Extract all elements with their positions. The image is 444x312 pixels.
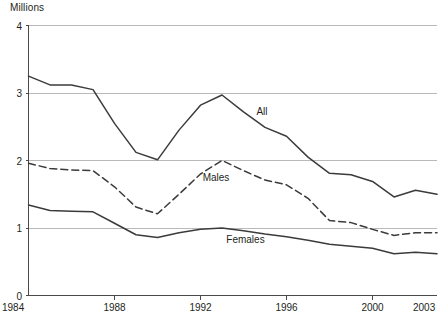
series-line-males bbox=[29, 161, 438, 236]
gridlines bbox=[29, 26, 438, 229]
y-axis-tick-label: 1 bbox=[6, 223, 22, 234]
x-axis-tick-label: 1992 bbox=[189, 302, 211, 312]
series-annotation-females: Females bbox=[226, 234, 264, 245]
y-axis-tick-label: 3 bbox=[6, 88, 22, 99]
x-axis-tick-label: 1988 bbox=[103, 302, 125, 312]
series-lines bbox=[29, 76, 438, 254]
plot-area bbox=[0, 0, 444, 312]
y-axis-tick-label: 0 bbox=[6, 290, 22, 301]
x-axis-tick-label: 2000 bbox=[361, 302, 383, 312]
line-chart: Millions 01234198419881992199620002003Al… bbox=[0, 0, 444, 312]
x-tick-marks bbox=[26, 26, 373, 300]
y-axis-tick-label: 4 bbox=[6, 20, 22, 31]
series-annotation-all: All bbox=[256, 106, 267, 117]
x-axis-tick-label: 2003 bbox=[413, 302, 435, 312]
series-annotation-males: Males bbox=[203, 172, 230, 183]
y-axis-tick-label: 2 bbox=[6, 155, 22, 166]
series-line-all bbox=[29, 76, 438, 197]
x-axis-tick-label: 1984 bbox=[2, 302, 24, 312]
series-line-females bbox=[29, 205, 438, 254]
x-axis-tick-label: 1996 bbox=[275, 302, 297, 312]
